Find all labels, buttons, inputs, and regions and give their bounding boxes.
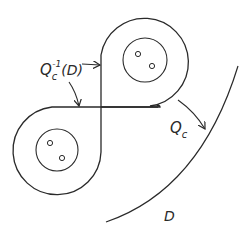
domain-label-d: D <box>164 208 175 224</box>
map-arrow-qc <box>178 100 205 129</box>
preimage-arrow-2 <box>69 82 79 106</box>
diagram-canvas: Qc-1(D) Qc D <box>0 0 248 236</box>
preimage-label: Qc-1(D) <box>40 59 83 82</box>
lower-lobe-boundary <box>13 107 101 195</box>
upper-dot-1 <box>135 51 140 56</box>
lower-dot-1 <box>47 140 52 145</box>
upper-lobe-boundary <box>101 18 188 107</box>
upper-dot-2 <box>149 63 154 68</box>
lower-dot-2 <box>59 155 64 160</box>
lower-inner-circle <box>36 129 78 171</box>
domain-curve-d <box>106 66 238 222</box>
map-label-qc: Qc <box>170 119 188 140</box>
upper-inner-circle <box>123 38 167 82</box>
figure-eight-diagram: Qc-1(D) Qc D <box>0 0 248 236</box>
preimage-arrow-1 <box>82 64 100 65</box>
